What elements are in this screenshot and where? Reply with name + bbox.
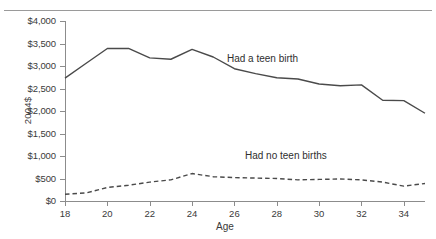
chart-series-layer xyxy=(0,0,436,239)
series-label-had-no-teen-births: Had no teen births xyxy=(245,150,327,161)
series-label-had-a-teen-birth: Had a teen birth xyxy=(227,53,298,64)
chart-figure: 2004$ $0$500$1,000$1,500$2,000$2,500$3,0… xyxy=(0,0,436,239)
series-line-had-no-teen-births xyxy=(65,174,425,195)
